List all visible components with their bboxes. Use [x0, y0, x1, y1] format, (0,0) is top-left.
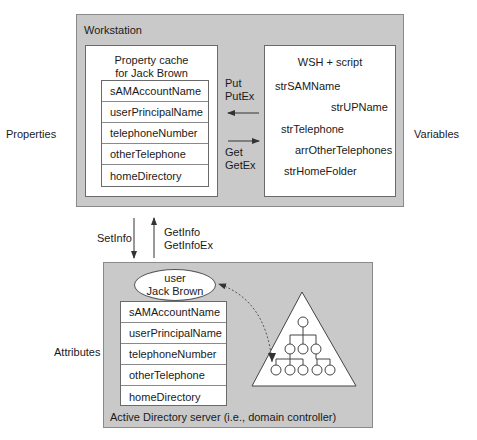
user-object-ellipse: user Jack Brown	[134, 269, 216, 301]
table-row: userPrincipalName	[102, 102, 208, 123]
setinfo-label: SetInfo	[97, 232, 132, 245]
getinfo-label: GetInfo	[164, 226, 200, 239]
getex-label: GetEx	[225, 159, 256, 172]
table-row: homeDirectory	[102, 165, 208, 186]
table-row: otherTelephone	[121, 365, 226, 386]
variable-item: strSAMName	[275, 80, 340, 93]
user-object-name: Jack Brown	[135, 285, 215, 298]
putex-label: PutEx	[225, 90, 254, 103]
workstation-container: Workstation Property cache for Jack Brow…	[76, 14, 404, 207]
variable-item: strTelephone	[281, 123, 344, 136]
table-row: otherTelephone	[102, 144, 208, 165]
table-row: sAMAccountName	[121, 302, 226, 323]
workstation-title: Workstation	[84, 24, 142, 37]
script-box: WSH + script strSAMName strUPName strTel…	[264, 45, 396, 197]
property-cache-box: Property cache for Jack Brown sAMAccount…	[85, 45, 218, 197]
put-label: Put	[225, 77, 242, 90]
properties-label: Properties	[6, 128, 56, 141]
table-row: telephoneNumber	[121, 344, 226, 365]
ad-attributes-table: sAMAccountName userPrincipalName telepho…	[120, 301, 227, 406]
variables-label: Variables	[414, 128, 459, 141]
table-row: userPrincipalName	[121, 323, 226, 344]
table-row: telephoneNumber	[102, 123, 208, 144]
table-row: sAMAccountName	[102, 81, 208, 102]
variable-item: strUPName	[331, 101, 388, 114]
ad-server-caption: Active Directory server (i.e., domain co…	[110, 411, 336, 424]
property-cache-title-line1: Property cache	[86, 54, 217, 67]
getinfoex-label: GetInfoEx	[164, 239, 213, 252]
get-label: Get	[225, 146, 243, 159]
variable-item: strHomeFolder	[284, 165, 357, 178]
attributes-label: Attributes	[54, 346, 100, 359]
user-object-class: user	[135, 272, 215, 285]
property-cache-title-line2: for Jack Brown	[86, 67, 217, 80]
script-title: WSH + script	[265, 56, 395, 69]
variable-item: arrOtherTelephones	[295, 144, 392, 157]
table-row: homeDirectory	[121, 386, 226, 407]
property-cache-table: sAMAccountName userPrincipalName telepho…	[101, 80, 209, 187]
